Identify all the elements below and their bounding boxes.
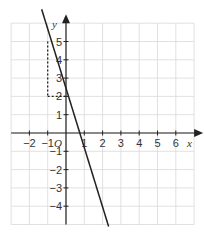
x-tick-label: 5 bbox=[154, 137, 160, 149]
tick-labels: −2−112345654321−1−2−3−4 bbox=[23, 36, 179, 213]
y-tick-label: −4 bbox=[49, 200, 62, 212]
y-tick-label: −2 bbox=[49, 164, 62, 176]
origin-label: O bbox=[54, 137, 62, 149]
dashed-rise-run-guides bbox=[48, 42, 66, 97]
x-tick-label: 3 bbox=[118, 137, 124, 149]
y-tick-label: −3 bbox=[49, 182, 62, 194]
x-tick-label: −2 bbox=[23, 137, 36, 149]
y-tick-label: 5 bbox=[56, 36, 62, 48]
x-tick-label: 2 bbox=[100, 137, 106, 149]
y-axis-label: y bbox=[51, 18, 57, 30]
x-axis-arrow-icon bbox=[194, 129, 203, 137]
coordinate-plane: −2−112345654321−1−2−3−4 x y O bbox=[0, 0, 204, 240]
y-axis-arrow-icon bbox=[62, 14, 70, 23]
x-tick-label: 4 bbox=[136, 137, 142, 149]
x-axis-label: x bbox=[186, 137, 192, 149]
axes bbox=[11, 14, 203, 224]
grid-lines bbox=[11, 23, 194, 224]
x-tick-label: 6 bbox=[173, 137, 179, 149]
y-tick-label: 1 bbox=[56, 109, 62, 121]
